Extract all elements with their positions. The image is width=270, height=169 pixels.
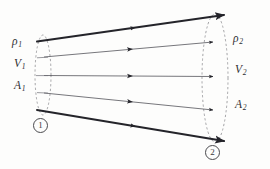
outlet-velocity-label: V2	[235, 64, 246, 76]
lower-boundary-line	[37, 110, 224, 141]
stream-tube-diagram-canvas	[0, 0, 270, 169]
outlet-velocity-symbol: V	[235, 63, 242, 75]
outlet-area-subscript: 2	[243, 103, 247, 112]
outlet-area-label: A2	[235, 99, 246, 111]
outlet-velocity-subscript: 2	[243, 68, 247, 77]
outlet-density-symbol: ρ	[233, 32, 239, 44]
inlet-velocity-label: V1	[14, 58, 25, 70]
inlet-cross-section-ellipse	[35, 35, 51, 115]
outlet-density-subscript: 2	[239, 37, 243, 46]
inlet-density-symbol: ρ	[12, 35, 18, 47]
inlet-area-subscript: 1	[22, 84, 26, 93]
station-2-text: 2	[210, 147, 215, 157]
station-1-text: 1	[38, 120, 43, 130]
station-marker-1: 1	[33, 118, 48, 133]
upper-boundary-line	[37, 15, 224, 42]
inlet-density-label: ρ1	[12, 36, 22, 48]
streamline-upper	[44, 42, 213, 57]
inlet-velocity-subscript: 1	[22, 62, 26, 71]
outlet-density-label: ρ2	[233, 33, 243, 45]
station-marker-2: 2	[205, 145, 220, 160]
outlet-cross-section-ellipse	[202, 14, 228, 142]
outlet-area-symbol: A	[235, 98, 242, 110]
streamline-center	[44, 76, 213, 77]
inlet-density-subscript: 1	[18, 40, 22, 49]
inlet-area-symbol: A	[14, 79, 21, 91]
inlet-area-label: A1	[14, 80, 25, 92]
inlet-velocity-symbol: V	[14, 57, 21, 69]
streamline-lower	[44, 93, 213, 110]
stream-tube-figure: ρ1 V1 A1 ρ2 V2 A2 1 2	[0, 0, 270, 169]
